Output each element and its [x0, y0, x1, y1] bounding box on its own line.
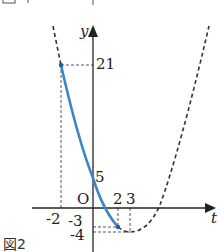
point-start — [59, 63, 63, 67]
tick-y-neg4: -4 — [70, 228, 85, 243]
tick-x-2: 2 — [113, 192, 123, 207]
parabola-dashed-left — [53, 26, 61, 65]
y-axis-label: y — [80, 24, 88, 39]
y-axis-arrow-icon — [88, 25, 98, 37]
figure-caption: 図2 — [3, 233, 26, 252]
tick-x-neg2: -2 — [46, 212, 61, 227]
point-end — [116, 225, 120, 229]
origin-label: O — [77, 192, 89, 207]
top-fragment — [3, 0, 93, 5]
x-axis-label: t — [211, 211, 217, 226]
highlighted-curve — [61, 65, 118, 227]
graph-svg — [0, 0, 219, 252]
tick-y-21: 21 — [96, 57, 115, 72]
tick-y-5: 5 — [95, 170, 105, 185]
tick-x-3: 3 — [126, 192, 136, 207]
